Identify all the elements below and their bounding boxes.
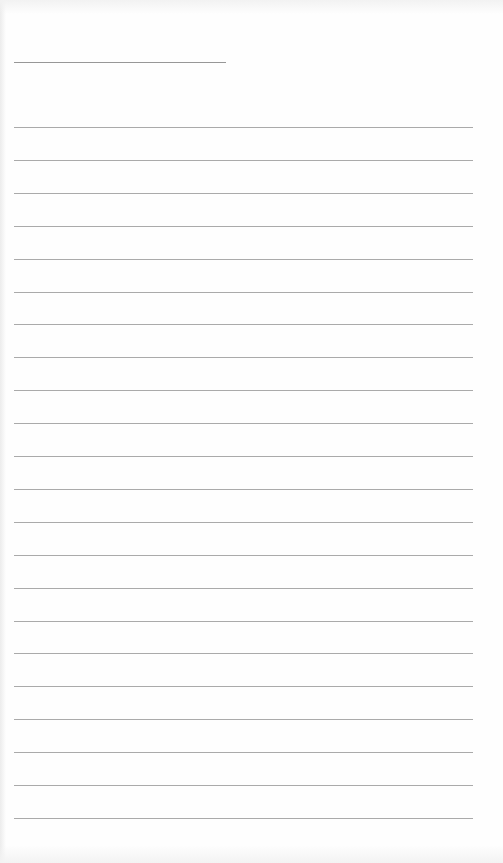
ruled-line (14, 324, 473, 325)
ruled-line (14, 292, 473, 293)
page-edge-shadow-left (0, 0, 6, 863)
ruled-line (14, 390, 473, 391)
ruled-line (14, 489, 473, 490)
lined-sheet (0, 0, 503, 863)
ruled-line (14, 653, 473, 654)
ruled-line (14, 357, 473, 358)
ruled-line (14, 423, 473, 424)
ruled-line (14, 127, 473, 128)
ruled-line (14, 456, 473, 457)
ruled-line (14, 160, 473, 161)
page-edge-shadow-top (0, 0, 503, 14)
page-edge-shadow-bottom (0, 845, 503, 863)
ruled-line (14, 686, 473, 687)
ruled-line (14, 522, 473, 523)
ruled-line (14, 259, 473, 260)
ruled-line (14, 588, 473, 589)
ruled-line (14, 719, 473, 720)
ruled-line (14, 226, 473, 227)
ruled-line (14, 555, 473, 556)
title-line (14, 62, 226, 63)
ruled-line (14, 752, 473, 753)
ruled-line (14, 818, 473, 819)
ruled-line (14, 621, 473, 622)
ruled-line (14, 193, 473, 194)
ruled-line (14, 785, 473, 786)
